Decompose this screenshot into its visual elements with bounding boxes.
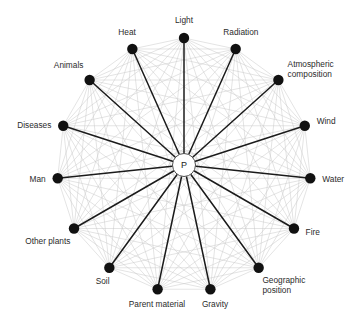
node-dot-soil[interactable] <box>104 263 114 273</box>
chord-line <box>109 80 278 268</box>
node-dot-fire[interactable] <box>289 223 299 233</box>
chord-line <box>74 229 210 290</box>
node-label-light: Light <box>175 15 194 25</box>
chord-line <box>63 38 184 126</box>
node-label-other-plants: Other plants <box>25 236 70 246</box>
node-dot-gravity[interactable] <box>205 284 215 294</box>
spoke-line-man <box>58 166 172 178</box>
node-label-heat: Heat <box>118 27 136 37</box>
chord-line <box>236 49 259 268</box>
node-label-atmospheric-composition: Atmosphericcomposition <box>288 59 334 79</box>
chord-line <box>184 38 305 126</box>
chord-line <box>74 80 90 228</box>
node-dot-water[interactable] <box>305 173 315 183</box>
node-label-fire: Fire <box>306 227 321 237</box>
chord-line <box>74 229 109 268</box>
node-dot-geographic-position[interactable] <box>253 263 263 273</box>
chord-line <box>184 38 294 229</box>
chord-line <box>109 268 157 289</box>
node-dot-light[interactable] <box>179 33 189 43</box>
spoke-line-animals <box>90 80 175 157</box>
node-label-geographic-position: Geographicposition <box>262 275 305 295</box>
node-label-wind: Wind <box>317 116 336 126</box>
chord-line <box>259 229 294 268</box>
node-dot-radiation[interactable] <box>230 44 240 54</box>
diagram-root: P LightRadiationAtmosphericcompositionWi… <box>0 0 360 332</box>
node-label-water: Water <box>322 174 344 184</box>
spoke-line-diseases <box>63 126 172 162</box>
chord-line <box>210 268 258 289</box>
center-node-group: P <box>173 154 196 177</box>
node-dot-heat[interactable] <box>127 44 137 54</box>
chord-line <box>90 80 259 268</box>
spoke-line-radiation <box>189 49 236 154</box>
spoke-line-atmospheric-composition <box>193 80 278 157</box>
node-label-soil: Soil <box>96 276 110 286</box>
spoke-line-wind <box>195 126 304 162</box>
node-label-radiation: Radiation <box>223 27 258 37</box>
node-dot-wind[interactable] <box>300 121 310 131</box>
chord-line <box>109 178 310 267</box>
node-dot-diseases[interactable] <box>58 121 68 131</box>
chord-line <box>132 49 310 178</box>
chord-line <box>278 80 294 228</box>
center-node-label: P <box>181 160 187 170</box>
node-dot-atmospheric-composition[interactable] <box>273 75 283 85</box>
spoke-line-heat <box>132 49 179 154</box>
chord-line <box>74 38 184 229</box>
node-label-man: Man <box>30 174 47 184</box>
node-dot-animals[interactable] <box>84 75 94 85</box>
node-label-gravity: Gravity <box>202 299 229 309</box>
node-label-animals: Animals <box>54 60 84 70</box>
spoke-line-water <box>196 166 310 178</box>
node-label-diseases: Diseases <box>17 120 51 130</box>
node-dot-man[interactable] <box>53 173 63 183</box>
chord-line <box>58 49 236 178</box>
node-dot-parent-material[interactable] <box>152 284 162 294</box>
node-dot-other-plants[interactable] <box>69 223 79 233</box>
node-label-parent-material: Parent material <box>129 299 185 309</box>
radial-network-diagram: P LightRadiationAtmosphericcompositionWi… <box>0 0 360 332</box>
chord-line <box>58 178 259 267</box>
chord-line <box>109 49 132 268</box>
